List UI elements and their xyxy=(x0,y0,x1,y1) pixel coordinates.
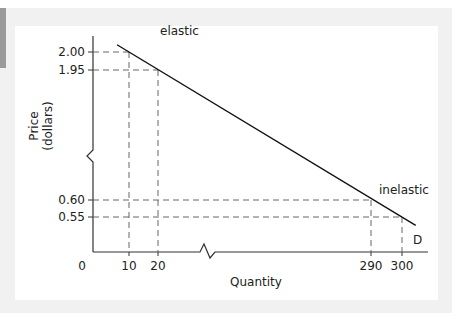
x-axis xyxy=(93,244,428,258)
x-tick-label: 20 xyxy=(150,259,165,273)
origin-label: 0 xyxy=(78,259,86,273)
y-tick-label: 2.00 xyxy=(58,45,85,59)
annotation-elastic: elastic xyxy=(160,24,199,38)
y-axis xyxy=(87,36,93,252)
x-tick-label: 290 xyxy=(360,259,383,273)
annotation-inelastic: inelastic xyxy=(379,183,429,197)
demand-chart: Price (dollars) Quantity 0 elastic inela… xyxy=(0,0,466,321)
x-tick-label: 300 xyxy=(391,259,414,273)
x-tick-label: 10 xyxy=(121,259,136,273)
y-axis-label-line2: (dollars) xyxy=(41,101,55,151)
y-tick-label: 0.60 xyxy=(58,193,85,207)
y-tick-label: 0.55 xyxy=(58,210,85,224)
y-tick-label: 1.95 xyxy=(58,63,85,77)
demand-curve-label: D xyxy=(413,233,422,247)
demand-curve xyxy=(117,45,416,226)
y-axis-label-line1: Price xyxy=(27,111,41,140)
x-axis-label: Quantity xyxy=(230,275,282,289)
